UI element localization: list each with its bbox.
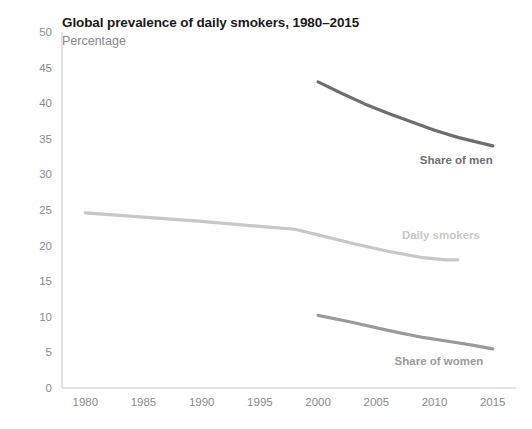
y-tick-label: 50 xyxy=(39,26,52,38)
series-label-share-of-women: Share of women xyxy=(395,355,484,367)
y-tick-label: 5 xyxy=(46,346,52,358)
y-tick-label: 0 xyxy=(46,382,52,394)
y-tick-label: 25 xyxy=(39,204,52,216)
chart-container: Global prevalence of daily smokers, 1980… xyxy=(0,0,532,429)
y-axis: 05101520253035404550 xyxy=(39,26,62,394)
series-line-share-of-men xyxy=(318,82,493,146)
y-tick-label: 10 xyxy=(39,311,52,323)
x-tick-label: 2010 xyxy=(422,396,448,408)
y-tick-label: 15 xyxy=(39,275,52,287)
series-line-share-of-women xyxy=(318,315,493,348)
y-tick-label: 45 xyxy=(39,62,52,74)
x-axis: 19801985199019952000200520102015 xyxy=(62,388,516,408)
x-tick-label: 2015 xyxy=(480,396,506,408)
y-tick-label: 40 xyxy=(39,97,52,109)
data-series-group xyxy=(85,82,492,349)
y-tick-label: 30 xyxy=(39,168,52,180)
x-tick-label: 1995 xyxy=(247,396,273,408)
x-tick-label: 2000 xyxy=(305,396,331,408)
series-label-share-of-men: Share of men xyxy=(420,154,493,166)
x-tick-label: 1980 xyxy=(72,396,98,408)
series-label-daily-smokers: Daily smokers xyxy=(402,229,480,241)
x-tick-label: 1985 xyxy=(131,396,157,408)
y-tick-label: 35 xyxy=(39,133,52,145)
x-tick-label: 2005 xyxy=(364,396,390,408)
line-chart-plot: 05101520253035404550 1980198519901995200… xyxy=(0,0,532,429)
x-tick-label: 1990 xyxy=(189,396,215,408)
y-tick-label: 20 xyxy=(39,240,52,252)
